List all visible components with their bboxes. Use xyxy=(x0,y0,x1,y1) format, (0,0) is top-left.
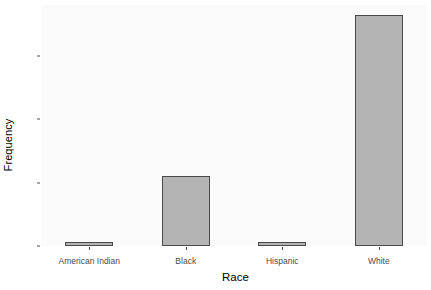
plot-panel xyxy=(41,5,427,246)
x-tick-mark xyxy=(186,247,187,250)
x-tick-label: White xyxy=(368,256,390,266)
x-tick-mark xyxy=(379,247,380,250)
x-tick-label: Hispanic xyxy=(266,256,299,266)
y-tick-mark xyxy=(37,182,40,183)
x-axis-title: Race xyxy=(40,271,431,283)
x-tick-label: American Indian xyxy=(59,256,120,266)
bar xyxy=(65,242,113,246)
y-tick-mark xyxy=(37,246,40,247)
bar xyxy=(258,242,306,246)
bar-chart-figure: Frequency 0204060 American IndianBlackHi… xyxy=(0,0,431,290)
y-tick-mark xyxy=(37,119,40,120)
y-tick-mark xyxy=(37,55,40,56)
x-tick-label: Black xyxy=(175,256,196,266)
bar xyxy=(355,15,403,246)
bar xyxy=(162,176,210,246)
x-tick-mark xyxy=(89,247,90,250)
x-tick-mark xyxy=(282,247,283,250)
y-axis-title: Frequency xyxy=(0,0,16,290)
